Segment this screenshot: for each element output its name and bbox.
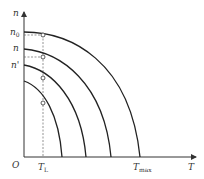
origin-label: O [12,160,20,170]
x-axis-label: T [188,162,195,172]
y-axis-label: n [13,8,19,18]
tl-label: TL [38,162,48,173]
point-4 [41,101,45,105]
point-3 [41,76,45,80]
speed-torque-diagram: n n0 n n' O TL Tmax T [0,0,204,179]
curve-3 [24,65,86,157]
n0-label: n0 [10,27,20,38]
tmax-label: Tmax [133,162,152,173]
nprime-label: n' [11,60,19,70]
point-1 [41,33,45,37]
n-label: n [13,43,19,53]
curve-2 [24,49,111,157]
point-2 [41,55,45,59]
